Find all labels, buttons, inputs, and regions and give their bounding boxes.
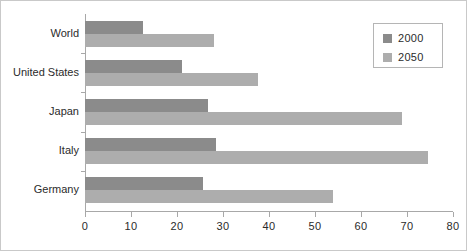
legend-label-2050: 2050 (398, 51, 424, 63)
y-axis-tick (81, 53, 86, 54)
y-axis-tick (81, 132, 86, 133)
x-axis-tick (453, 212, 454, 217)
chart-legend: 20002050 (373, 23, 443, 68)
legend-label-2000: 2000 (398, 32, 424, 44)
bar-united-states-2050 (85, 73, 258, 86)
x-axis-tick (177, 212, 178, 217)
x-axis-tick-label: 20 (157, 220, 197, 232)
bar-germany-2050 (85, 190, 333, 203)
bar-italy-2050 (85, 151, 428, 164)
x-axis-tick (361, 212, 362, 217)
x-axis-tick (407, 212, 408, 217)
x-axis-tick (223, 212, 224, 217)
bar-united-states-2000 (85, 60, 182, 73)
category-label-world: World (0, 27, 79, 39)
x-axis-tick-label: 70 (387, 220, 427, 232)
x-axis-tick-label: 0 (65, 220, 105, 232)
legend-item-2050[interactable]: 2050 (383, 49, 442, 65)
x-axis-tick-label: 60 (341, 220, 381, 232)
y-axis-tick (81, 171, 86, 172)
bar-japan-2000 (85, 99, 208, 112)
x-axis-tick-label: 50 (295, 220, 335, 232)
legend-swatch-2000 (383, 34, 392, 43)
bar-world-2050 (85, 34, 214, 47)
category-label-united-states: United States (0, 66, 79, 78)
bar-italy-2000 (85, 138, 216, 151)
y-axis-tick (81, 92, 86, 93)
legend-swatch-2050 (383, 53, 392, 62)
x-axis-tick (315, 212, 316, 217)
bar-japan-2050 (85, 112, 402, 125)
x-axis-tick (85, 212, 86, 217)
category-label-italy: Italy (0, 144, 79, 156)
chart-frame: WorldUnited StatesJapanItalyGermany 2000… (0, 0, 467, 251)
x-axis-tick (269, 212, 270, 217)
x-axis-tick (131, 212, 132, 217)
legend-item-2000[interactable]: 2000 (383, 30, 442, 46)
bar-germany-2000 (85, 177, 203, 190)
category-axis-labels: WorldUnited StatesJapanItalyGermany (1, 1, 79, 251)
x-axis-tick-label: 30 (203, 220, 243, 232)
category-label-germany: Germany (0, 183, 79, 195)
x-axis-tick-label: 10 (111, 220, 151, 232)
bar-world-2000 (85, 21, 143, 34)
category-label-japan: Japan (0, 105, 79, 117)
x-axis-tick-label: 40 (249, 220, 289, 232)
x-axis-tick-label: 80 (433, 220, 467, 232)
